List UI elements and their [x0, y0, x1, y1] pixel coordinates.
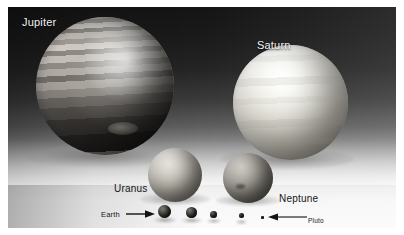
photograph: Jupiter Saturn Uranus Neptune Earth Plut… [8, 7, 396, 228]
earth-leader-arrow [126, 209, 156, 219]
venus-shadow [182, 218, 202, 223]
planet-mercury [239, 213, 244, 218]
mars-shadow [207, 219, 221, 223]
jupiter-limb-shading [36, 17, 174, 155]
label-jupiter: Jupiter [22, 16, 56, 28]
planet-venus [186, 207, 197, 218]
label-neptune: Neptune [279, 193, 318, 204]
planet-uranus [148, 148, 202, 202]
planet-earth [158, 205, 171, 218]
saturn-limb-shading [233, 45, 348, 160]
mercury-shadow [236, 220, 247, 224]
planet-jupiter [36, 17, 174, 155]
planet-neptune [223, 153, 273, 203]
label-saturn: Saturn [257, 39, 291, 51]
planet-mars [210, 211, 217, 218]
label-pluto: Pluto [308, 217, 324, 224]
planet-saturn [233, 45, 348, 160]
neptune-dark-spot [236, 184, 245, 189]
planet-size-comparison-figure: Jupiter Saturn Uranus Neptune Earth Plut… [0, 0, 404, 235]
label-earth: Earth [101, 210, 120, 219]
planet-pluto [261, 216, 264, 219]
label-uranus: Uranus [114, 183, 147, 194]
pluto-leader-arrow [267, 212, 307, 222]
